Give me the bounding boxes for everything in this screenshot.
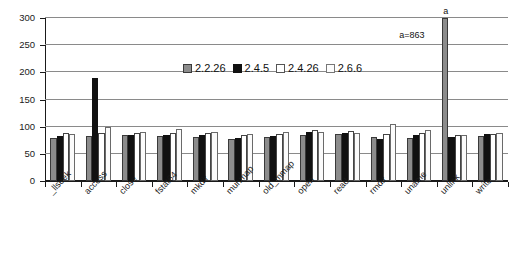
- x-tick-mark: [472, 182, 473, 187]
- y-tick-label-200: 200: [19, 67, 35, 77]
- bar: [140, 132, 146, 181]
- legend-swatch: [276, 64, 285, 73]
- x-tick-mark: [187, 182, 188, 187]
- y-tick-mark-300: [40, 18, 46, 19]
- x-tick-mark: [437, 182, 438, 187]
- bar-group: [335, 18, 360, 181]
- bar: [390, 124, 396, 181]
- x-tick-mark: [116, 182, 117, 187]
- legend: 2.2.262.4.52.4.262.6.6: [183, 63, 362, 74]
- x-tick-mark: [366, 182, 367, 187]
- y-tick-mark-100: [40, 127, 46, 128]
- x-tick-mark: [81, 182, 82, 187]
- bar-group: [300, 18, 325, 181]
- x-tick-mark: [401, 182, 402, 187]
- legend-swatch: [233, 64, 242, 73]
- bar: [496, 133, 502, 181]
- y-tick-label-150: 150: [19, 95, 35, 105]
- bar-group: [193, 18, 218, 181]
- y-tick-mark-200: [40, 72, 46, 73]
- legend-label: 2.4.5: [245, 63, 269, 74]
- x-tick-mark: [259, 182, 260, 187]
- x-tick-mark: [508, 182, 509, 187]
- y-tick-label-50: 50: [24, 149, 35, 159]
- bar-group: [50, 18, 75, 181]
- y-tick-mark-150: [40, 100, 46, 101]
- bar-group: [478, 18, 503, 181]
- legend-label: 2.6.6: [338, 63, 362, 74]
- bar-group: [86, 18, 111, 181]
- bar: [354, 133, 360, 181]
- bar: [461, 135, 467, 181]
- y-tick-label-0: 0: [30, 176, 35, 186]
- annotation-marker: a: [443, 7, 448, 16]
- legend-label: 2.4.26: [288, 63, 319, 74]
- bar: [318, 132, 324, 181]
- bar-group: [442, 18, 467, 181]
- y-tick-label-250: 250: [19, 40, 35, 50]
- bar-group: [264, 18, 289, 181]
- x-tick-mark: [152, 182, 153, 187]
- x-tick-mark: [330, 182, 331, 187]
- bar: [176, 129, 182, 181]
- bar-chart: 050100150200250300 _llseekaccessclosefst…: [0, 0, 530, 267]
- x-tick-mark: [294, 182, 295, 187]
- bar-group: [371, 18, 396, 181]
- legend-label: 2.2.26: [195, 63, 226, 74]
- legend-entry: 2.4.26: [276, 63, 319, 74]
- y-tick-label-100: 100: [19, 122, 35, 132]
- bar-group: [407, 18, 432, 181]
- bar-group: [157, 18, 182, 181]
- legend-entry: 2.6.6: [326, 63, 362, 74]
- bar: [211, 132, 217, 181]
- y-tick-mark-250: [40, 45, 46, 46]
- y-tick-mark-50: [40, 154, 46, 155]
- x-tick-mark: [45, 182, 46, 187]
- legend-swatch: [183, 64, 192, 73]
- plot-area: [45, 18, 508, 181]
- bar-group: [122, 18, 147, 181]
- bar-group: [228, 18, 253, 181]
- legend-entry: 2.4.5: [233, 63, 269, 74]
- annotation-value-label: a=863: [399, 31, 424, 40]
- x-tick-mark: [223, 182, 224, 187]
- y-tick-label-300: 300: [19, 13, 35, 23]
- legend-entry: 2.2.26: [183, 63, 226, 74]
- legend-swatch: [326, 64, 335, 73]
